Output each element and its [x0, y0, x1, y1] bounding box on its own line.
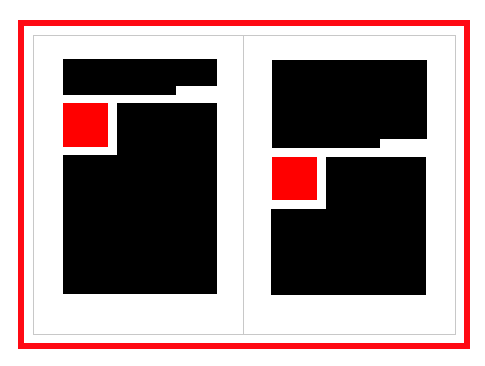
right-body-block-top: [326, 157, 426, 209]
left-body-block-bottom: [63, 155, 217, 294]
left-header-block: [63, 59, 217, 86]
right-header-block: [272, 60, 427, 139]
spine-divider: [243, 35, 244, 335]
left-image-placeholder: [63, 103, 108, 147]
left-body-block-top: [117, 103, 217, 155]
right-image-placeholder: [272, 157, 317, 200]
left-header-block-tail: [63, 86, 176, 95]
right-header-block-tail: [272, 139, 380, 148]
right-body-block-bottom: [271, 209, 426, 295]
